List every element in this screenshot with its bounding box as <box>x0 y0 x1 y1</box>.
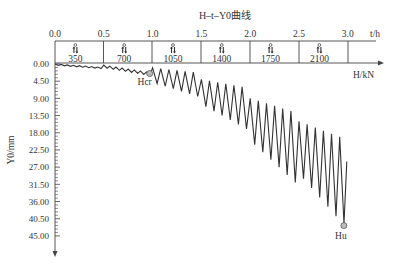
time-tick-label: 2.0 <box>244 29 256 39</box>
y-tick-label: 40.50 <box>29 214 50 224</box>
cyclic-load-arrows-icon <box>268 44 274 54</box>
load-stage-cell: 1400 <box>212 44 231 64</box>
hcr-label: Hcr <box>138 77 153 87</box>
load-stage-cell: 2100 <box>310 44 329 64</box>
load-stage-value: 1750 <box>261 54 280 64</box>
y-tick-label: 0.00 <box>33 59 49 69</box>
cyclic-load-arrows-icon <box>219 44 225 54</box>
y-tick-label: 9.00 <box>33 94 49 104</box>
load-stage-value: 2100 <box>310 54 329 64</box>
time-tick-label: 1.0 <box>147 29 159 39</box>
y-tick-label: 27.00 <box>29 162 50 172</box>
y-tick-label: 18.00 <box>29 128 50 138</box>
y-tick-label: 31.50 <box>29 180 50 190</box>
time-axis: 0.00.51.01.52.02.53.0 <box>49 29 354 39</box>
load-stage-value: 700 <box>117 54 132 64</box>
y-tick-label: 13.50 <box>29 111 50 121</box>
hu-label: Hu <box>335 231 347 241</box>
load-stage-value: 1400 <box>212 54 231 64</box>
load-stage-cell: 350 <box>68 44 83 64</box>
cyclic-load-arrows-icon <box>170 44 176 54</box>
chart-title: H–t–Y0曲线 <box>199 9 251 21</box>
y-tick-label: 36.00 <box>29 197 50 207</box>
time-tick-label: 1.5 <box>195 29 207 39</box>
load-stage-value: 1050 <box>164 54 183 64</box>
h-t-y0-chart: H–t–Y0曲线 0.00.51.01.52.02.53.0 t/h 35070… <box>0 0 395 267</box>
y0-displacement-curve <box>55 64 347 226</box>
cyclic-load-arrows-icon <box>316 44 322 54</box>
y-tick-label: 22.50 <box>29 145 50 155</box>
hu-marker: Hu <box>335 223 347 241</box>
load-stage-cell: 1050 <box>164 44 183 64</box>
cyclic-load-arrows-icon <box>121 44 127 54</box>
load-axis-label: H/kN <box>353 70 374 80</box>
y-tick-label: 4.50 <box>33 76 49 86</box>
cyclic-load-arrows-icon <box>72 44 78 54</box>
time-tick-label: 0.5 <box>98 29 110 39</box>
load-stage-cell: 1750 <box>261 44 280 64</box>
time-tick-label: 3.0 <box>342 29 354 39</box>
time-tick-label: 0.0 <box>49 29 61 39</box>
load-stage-cell: 700 <box>117 44 132 64</box>
time-tick-label: 2.5 <box>293 29 305 39</box>
y-axis-label: Y0/mm <box>6 135 16 165</box>
y-tick-label: 45.00 <box>29 231 50 241</box>
time-axis-label: t/h <box>370 29 380 39</box>
load-stage-value: 350 <box>68 54 83 64</box>
